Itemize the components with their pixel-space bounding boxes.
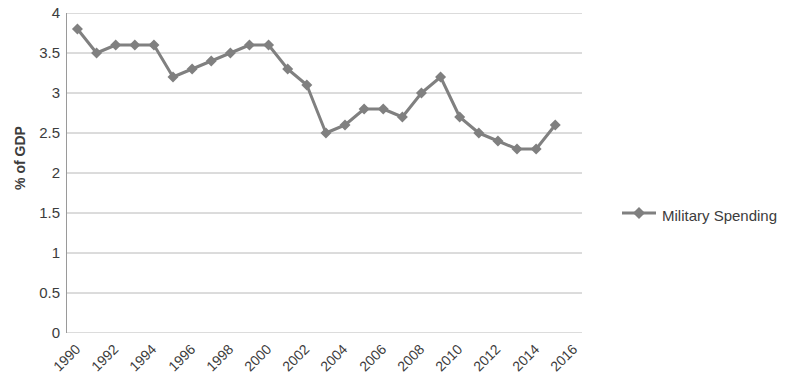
x-axis-tick-label: 1996	[155, 341, 197, 383]
x-axis-tick-label: 2004	[308, 341, 350, 383]
x-axis-tick-label: 2012	[461, 341, 503, 383]
x-axis-tick-label: 2006	[347, 341, 389, 383]
x-axis-tick-label: 2016	[538, 341, 580, 383]
x-axis-tick-label: 2002	[270, 341, 312, 383]
x-axis-tick-label: 1998	[194, 341, 236, 383]
x-axis-tick-label: 1990	[41, 341, 83, 383]
legend-marker-icon	[622, 206, 656, 224]
x-axis-tick-label: 2008	[385, 341, 427, 383]
legend-entry-label: Military Spending	[662, 207, 777, 224]
chart-legend: Military Spending	[622, 206, 777, 224]
x-axis-tick-labels: 1990199219941996199820002002200420062008…	[0, 0, 803, 391]
x-axis-tick-label: 2014	[499, 341, 541, 383]
x-axis-tick-label: 1992	[79, 341, 121, 383]
line-chart: % of GDP 00.511.522.533.54 1990199219941…	[0, 0, 803, 391]
x-axis-tick-label: 2000	[232, 341, 274, 383]
x-axis-tick-label: 1994	[117, 341, 159, 383]
x-axis-tick-label: 2010	[423, 341, 465, 383]
